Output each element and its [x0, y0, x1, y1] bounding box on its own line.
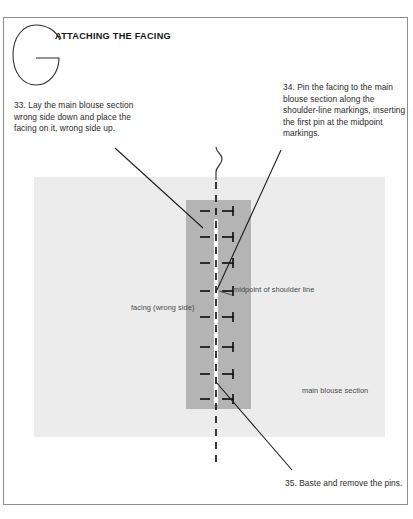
figure-page: ATTACHING THE FACING — [0, 0, 413, 519]
section-title: ATTACHING THE FACING — [55, 31, 171, 41]
note-step-35: 35. Baste and remove the pins. — [285, 478, 410, 490]
note-step-33: 33. Lay the main blouse section wrong si… — [14, 100, 144, 135]
note-step-34: 34. Pin the facing to the main blouse se… — [283, 82, 411, 140]
